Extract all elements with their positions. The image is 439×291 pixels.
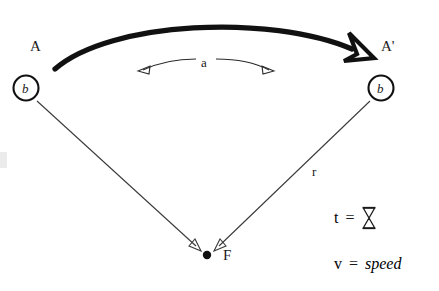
label-radius: r [312,165,316,178]
diagram-canvas [0,0,439,291]
label-position-a: A [30,39,41,54]
time-equals-sign: = [345,209,354,227]
label-arc-distance: a [201,56,207,69]
orbital-arc-diagram: A A' b b a r F t = v = speed [0,0,439,291]
speed-symbol: v [334,255,342,273]
label-focus: F [223,248,231,263]
curved-motion-arrow-icon [55,27,374,69]
radius-arrow-left-icon [37,101,201,251]
speed-equals-sign: = [349,255,358,273]
hourglass-icon [361,206,377,230]
label-body-start: b [22,82,29,95]
speed-value: speed [365,255,401,273]
time-symbol: t [334,209,338,227]
focus-dot-icon [203,251,211,259]
label-body-end: b [377,82,384,95]
time-definition: t = [334,206,377,230]
label-position-a-prime: A' [381,39,395,54]
speed-definition: v = speed [334,255,401,273]
